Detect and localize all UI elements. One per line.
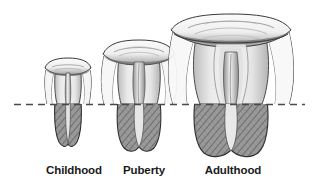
adulthood-right-flare-fill	[269, 32, 294, 104]
childhood-right-flare-fill	[82, 70, 91, 104]
stage-label-childhood: Childhood	[34, 164, 114, 177]
adulthood-left-flare-fill	[168, 32, 193, 104]
stage-label-adulthood: Adulthood	[189, 164, 277, 177]
uterus-childhood	[45, 58, 91, 146]
puberty-left-flare-fill	[101, 56, 117, 104]
childhood-canal	[65, 73, 71, 104]
stage-label-puberty: Puberty	[111, 164, 177, 177]
uterus-adulthood	[168, 14, 293, 157]
uterus-development-figure: Childhood Puberty Adulthood	[0, 0, 314, 194]
childhood-left-flare-fill	[45, 70, 54, 104]
uterus-puberty	[101, 40, 176, 151]
